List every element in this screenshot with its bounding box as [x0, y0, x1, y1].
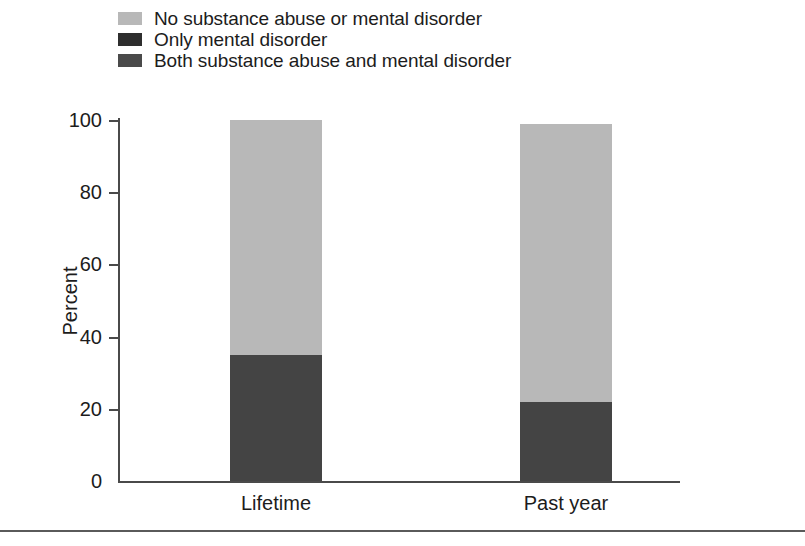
bar-past-year[interactable] — [520, 124, 612, 481]
legend-item-only-mental: Only mental disorder — [118, 29, 678, 50]
legend-item-no-disorder: No substance abuse or mental disorder — [118, 8, 678, 29]
y-tick-label-20: 20 — [80, 397, 102, 420]
x-axis-label-past-year: Past year — [520, 492, 612, 515]
y-tick-mark-100 — [109, 120, 118, 122]
figure-bottom-rule — [0, 530, 805, 532]
legend-swatch-only-mental — [118, 33, 142, 46]
y-tick-mark-60 — [109, 264, 118, 266]
legend-item-both: Both substance abuse and mental disorder — [118, 50, 678, 71]
bar-segment-both-past-year — [520, 402, 612, 481]
y-axis-line — [118, 118, 120, 483]
y-tick-mark-80 — [109, 192, 118, 194]
bar-segment-no-disorder-lifetime — [230, 120, 322, 355]
bar-segment-both-lifetime — [230, 355, 322, 481]
y-tick-mark-20 — [109, 409, 118, 411]
x-axis-label-lifetime: Lifetime — [230, 492, 322, 515]
legend-swatch-both — [118, 54, 142, 67]
chart-legend: No substance abuse or mental disorder On… — [118, 8, 678, 71]
y-tick-mark-40 — [109, 337, 118, 339]
y-tick-label-40: 40 — [80, 325, 102, 348]
bar-lifetime[interactable] — [230, 120, 322, 481]
y-tick-label-0: 0 — [91, 470, 102, 493]
bar-segment-no-disorder-past-year — [520, 124, 612, 402]
legend-label-only-mental: Only mental disorder — [154, 29, 327, 50]
stacked-bar-chart-figure: No substance abuse or mental disorder On… — [0, 0, 805, 546]
y-tick-label-100: 100 — [69, 109, 102, 132]
plot-area: Percent 100 80 60 40 20 0 — [118, 120, 678, 481]
y-axis-title: Percent — [59, 266, 82, 335]
x-axis-line — [118, 481, 680, 483]
y-tick-label-60: 60 — [80, 253, 102, 276]
y-tick-label-80: 80 — [80, 181, 102, 204]
y-tick-mark-0 — [109, 481, 118, 483]
legend-swatch-no-disorder — [118, 12, 142, 25]
legend-label-both: Both substance abuse and mental disorder — [154, 50, 511, 71]
legend-label-no-disorder: No substance abuse or mental disorder — [154, 8, 482, 29]
